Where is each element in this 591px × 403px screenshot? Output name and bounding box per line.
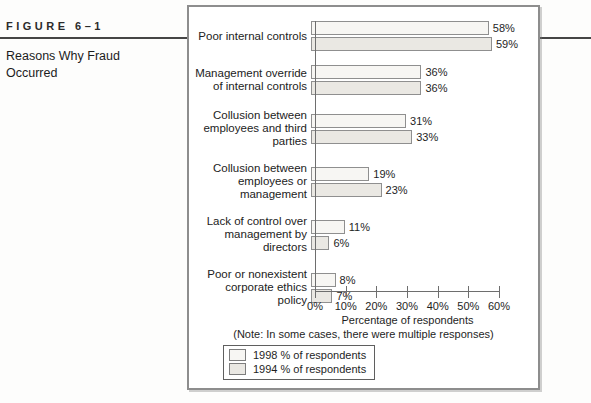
bar-1994 [311,81,421,95]
category-label: Collusion between employees and third pa… [189,109,311,148]
category-bars: 19%23% [311,162,538,201]
x-axis-tick-label: 30% [396,300,418,312]
bar-value-label: 36% [425,66,447,78]
bar-row: 58% [311,21,538,35]
category-bars: 36%36% [311,65,538,95]
bar-row: 33% [311,130,538,144]
bar-1998 [311,114,406,128]
x-axis-tick [468,286,469,298]
bar-row: 11% [311,220,538,234]
x-axis-tick [438,286,439,298]
bar-value-label: 59% [496,38,518,50]
category-label: Poor or nonexistent corporate ethics pol… [189,268,311,307]
legend-swatch-1998 [229,349,246,361]
bar-row: 59% [311,37,538,51]
legend-swatch-1994 [229,363,246,375]
bar-1994 [311,37,492,51]
bar-value-label: 6% [333,237,349,249]
chart-group: Collusion between employees or managemen… [189,162,538,201]
legend-label: 1998 % of respondents [253,349,366,361]
x-axis-tick [376,286,377,298]
bar-1994 [311,183,382,197]
x-axis-tick [315,286,316,298]
x-axis-tick-label: 60% [488,300,510,312]
chart-group: Collusion between employees and third pa… [189,109,538,148]
bar-value-label: 23% [386,184,408,196]
chart-group: Management override of internal controls… [189,65,538,95]
legend-item: 1998 % of respondents [229,349,366,361]
bar-value-label: 31% [410,115,432,127]
category-bars: 31%33% [311,109,538,148]
bar-value-label: 58% [493,22,515,34]
x-axis-tick [346,286,347,298]
category-label: Poor internal controls [189,21,311,51]
legend-label: 1994 % of respondents [253,363,366,375]
x-axis-tick-label: 20% [365,300,387,312]
y-axis-line [315,21,316,292]
bar-row: 6% [311,236,538,250]
chart-note: (Note: In some cases, there were multipl… [189,328,538,340]
bar-value-label: 19% [373,168,395,180]
bar-row: 36% [311,65,538,79]
bar-value-label: 8% [340,274,356,286]
category-bars: 58%59% [311,21,538,51]
bar-1998 [311,167,369,181]
bar-1998 [311,220,345,234]
x-axis-title: Percentage of respondents [315,314,500,326]
x-axis-tick-label: 40% [427,300,449,312]
x-axis-tick-label: 0% [307,300,323,312]
bar-1994 [311,236,329,250]
chart-group: Poor internal controls58%59% [189,21,538,51]
category-label: Collusion between employees or managemen… [189,162,311,201]
category-label: Management override of internal controls [189,65,311,95]
bar-row: 23% [311,183,538,197]
figure-title: Reasons Why Fraud Occurred [6,48,120,82]
bar-1998 [311,65,421,79]
chart-group: Lack of control over management by direc… [189,215,538,254]
bar-value-label: 33% [416,131,438,143]
chart-panel: Poor internal controls58%59%Management o… [187,5,540,390]
x-axis-tick-labels: 0%10%20%30%40%50%60% [315,300,500,313]
bar-chart: Poor internal controls58%59%Management o… [189,21,538,321]
bar-1998 [311,21,489,35]
x-axis-tick-label: 50% [457,300,479,312]
bar-1994 [311,130,412,144]
x-axis [315,286,500,298]
x-axis-tick [407,286,408,298]
legend-item: 1994 % of respondents [229,363,366,375]
bar-row: 31% [311,114,538,128]
legend: 1998 % of respondents1994 % of responden… [223,345,375,380]
bar-row: 8% [311,273,538,287]
bar-row: 36% [311,81,538,95]
figure-label: FIGURE 6–1 [6,20,104,32]
category-bars: 11%6% [311,215,538,254]
x-axis-tick-label: 10% [335,300,357,312]
bar-value-label: 11% [349,221,370,233]
bar-value-label: 36% [425,82,447,94]
bar-row: 19% [311,167,538,181]
category-label: Lack of control over management by direc… [189,215,311,254]
x-axis-tick [499,286,500,298]
